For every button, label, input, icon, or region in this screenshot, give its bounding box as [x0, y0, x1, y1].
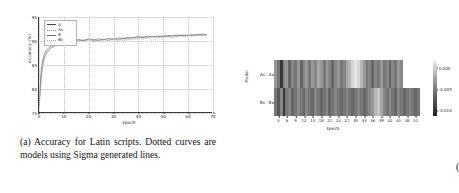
- panel-a-accuracy-chart: Accuracy (%) Epoch 758085909501020304050…: [8, 6, 220, 191]
- y-axis-label: Accuracy (%): [27, 19, 32, 79]
- x-axis-tick-label: 40: [136, 114, 141, 119]
- x-axis-tick-label: 50: [161, 114, 166, 119]
- y-axis-tick-label: 90: [32, 39, 37, 44]
- y-axis-tick-label: 95: [32, 15, 37, 20]
- grid-line-vertical: [89, 17, 90, 112]
- x-axis-tick-label: 0: [38, 114, 41, 119]
- heatmap-x-tick-label: 3: [277, 118, 279, 123]
- x-axis-tick-label: 20: [86, 114, 91, 119]
- grid-line-vertical: [138, 17, 139, 112]
- legend-item-label: Bs: [58, 38, 63, 42]
- panel-a-caption: (a) Accuracy for Latin scripts. Dotted c…: [20, 136, 216, 161]
- heatmap-x-axis-label: Epoch: [248, 126, 418, 131]
- heatmap-grid: As - ABs - B3691215182124273033363942454…: [274, 60, 420, 116]
- heatmap-x-tick-label: 18: [319, 118, 324, 123]
- panel-b-heatmap: Model Epoch As - ABs - B3691215182124273…: [228, 6, 456, 191]
- colorbar-tick-label: -0.005: [439, 87, 452, 92]
- heatmap-row-label: Bs - B: [260, 100, 272, 105]
- colorbar-tick-label: -0.010: [439, 108, 452, 113]
- grid-line-vertical: [39, 17, 40, 112]
- heatmap-row-label: As - A: [260, 72, 272, 77]
- legend-item-Bs[interactable]: Bs: [47, 38, 74, 43]
- x-axis-tick-label: 10: [61, 114, 66, 119]
- y-axis-tick-label: 75: [32, 111, 37, 116]
- x-axis-tick-label: 30: [111, 114, 116, 119]
- heatmap-x-tick-label: 21: [327, 118, 332, 123]
- heatmap-x-tick-label: 42: [387, 118, 392, 123]
- y-axis-tick-label: 80: [32, 87, 37, 92]
- heatmap-y-axis-label: Model: [244, 47, 249, 107]
- heatmap-x-tick-label: 39: [379, 118, 384, 123]
- heatmap-x-tick-label: 9: [294, 118, 296, 123]
- heatmap-x-tick-label: 12: [302, 118, 307, 123]
- line-chart-plot: Accuracy (%) Epoch 758085909501020304050…: [8, 6, 220, 128]
- heatmap-x-tick-label: 15: [310, 118, 315, 123]
- grid-line-vertical: [213, 17, 214, 112]
- legend-swatch-icon: [47, 24, 56, 25]
- heatmap-x-tick-label: 24: [336, 118, 341, 123]
- heatmap-x-tick-label: 48: [405, 118, 410, 123]
- grid-line-horizontal: [39, 65, 212, 66]
- legend-swatch-icon: [47, 30, 56, 31]
- x-axis-label: Epoch: [38, 120, 220, 125]
- heatmap-x-tick-label: 33: [362, 118, 367, 123]
- heatmap-cell: [400, 60, 403, 88]
- colorbar-tick-label: 0.000: [439, 65, 450, 70]
- colorbar: 0.000-0.005-0.010: [433, 60, 437, 116]
- heatmap-plot: Model Epoch As - ABs - B3691215182124273…: [228, 6, 456, 134]
- grid-line-horizontal: [39, 89, 212, 90]
- heatmap-cell: [417, 88, 420, 116]
- grid-line-vertical: [188, 17, 189, 112]
- x-axis-tick-label: 70: [210, 114, 215, 119]
- heatmap-x-tick-label: 6: [286, 118, 288, 123]
- legend-swatch-icon: [47, 40, 56, 41]
- heatmap-x-tick-label: 27: [345, 118, 350, 123]
- heatmap-x-tick-label: 51: [413, 118, 418, 123]
- y-axis-tick-label: 85: [32, 63, 37, 68]
- heatmap-x-tick-label: 30: [353, 118, 358, 123]
- heatmap-row-1: [274, 60, 420, 88]
- grid-line-vertical: [163, 17, 164, 112]
- chart-legend: AAsBBs: [44, 20, 77, 46]
- grid-line-vertical: [114, 17, 115, 112]
- heatmap-row-2: [274, 88, 420, 116]
- x-axis-tick-label: 60: [186, 114, 191, 119]
- heatmap-x-tick-label: 45: [396, 118, 401, 123]
- grid-line-horizontal: [39, 17, 212, 18]
- figure-container: Accuracy (%) Epoch 758085909501020304050…: [0, 0, 459, 193]
- heatmap-x-tick-label: 36: [370, 118, 375, 123]
- legend-swatch-icon: [47, 35, 56, 36]
